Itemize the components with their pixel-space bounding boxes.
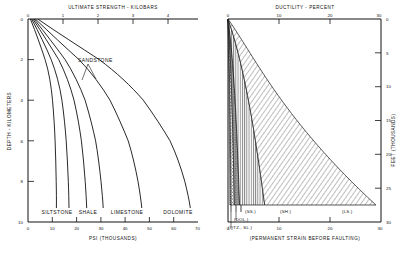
band-label-dol: (DOL.)	[234, 217, 249, 222]
right-top-tick-30: 30	[377, 13, 382, 18]
right-x-tick-10: 10	[277, 226, 282, 231]
right-top-tick-20: 20	[328, 13, 333, 18]
right-y-tick-10: 10	[386, 84, 391, 89]
left-x-tick-10: 10	[50, 226, 55, 231]
left-x-tick-50: 50	[147, 226, 152, 231]
band-label-qtz-sl: (QTZ., SL.)	[228, 225, 252, 230]
left-x-tick-70: 70	[195, 226, 200, 231]
left-bottom-axis-title: PSI (THOUSANDS)	[89, 236, 137, 241]
label-siltstone: SILTSTONE	[42, 209, 73, 215]
band-label-ls: (LS.)	[342, 209, 353, 214]
right-x-tick-30: 30	[378, 226, 383, 231]
left-x-tick-20: 20	[74, 226, 79, 231]
right-bottom-axis-title: (PERMANENT STRAIN BEFORE FAULTING)	[250, 236, 361, 241]
left-y-tick-10: 10	[18, 220, 23, 225]
figure-root: ULTIMATE STRENGTH - KILOBARS 0 1 2 3 4 0…	[0, 0, 399, 257]
label-dolomite: DOLOMITE	[163, 209, 193, 215]
right-y-axis-title: FEET (THOUSANDS)	[391, 114, 396, 167]
left-y-axis-title: DEPTH - KILOMETERS	[7, 92, 12, 150]
right-top-tick-10: 10	[277, 13, 282, 18]
left-x-tick-40: 40	[123, 226, 128, 231]
figure-background	[0, 0, 399, 257]
band-label-sh: (SH.)	[280, 209, 292, 214]
right-y-tick-30: 30	[386, 220, 391, 225]
right-top-axis-title: DUCTILITY - PERCENT	[275, 5, 334, 10]
label-limestone: LIMESTONE	[111, 209, 144, 215]
left-x-tick-60: 60	[171, 226, 176, 231]
right-y-tick-25: 25	[386, 186, 391, 191]
left-x-tick-30: 30	[98, 226, 103, 231]
label-shale: SHALE	[79, 209, 98, 215]
figure-svg: ULTIMATE STRENGTH - KILOBARS 0 1 2 3 4 0…	[0, 0, 399, 257]
right-x-tick-20: 20	[328, 226, 333, 231]
callout-sandstone: SANDSTONE	[78, 57, 113, 63]
band-label-ss: (SS.)	[245, 209, 256, 214]
left-top-axis-title: ULTIMATE STRENGTH - KILOBARS	[68, 5, 158, 10]
